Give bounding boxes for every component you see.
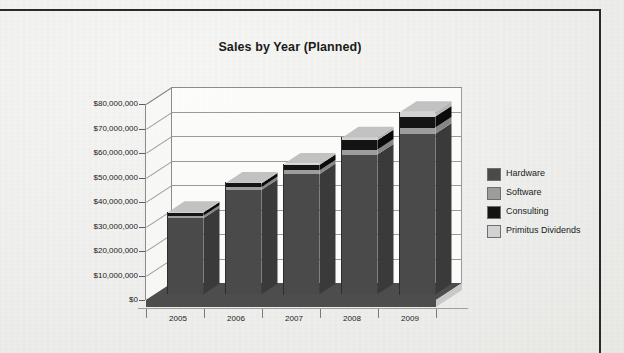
bar-side-2005-hardware [203,208,219,294]
ytick-label-80000000: $80,000,000 [52,99,138,108]
bar-side-2006-primitus-dividends [261,172,277,184]
bar-side-2007-primitus-dividends [319,153,335,165]
x-axis-baseline [138,308,468,309]
bar-top-2007 [284,153,335,164]
chart-sheet: Sales by Year (Planned) $80,000,000$70,0… [0,0,624,353]
legend-label-hardware: Hardware [506,168,545,178]
bar-side-2009-primitus-dividends [435,101,451,116]
bar-side-2005-software [203,205,219,218]
bar-segment-2009-software [400,128,435,134]
ytick-label-60000000: $60,000,000 [52,148,138,157]
ytick-label-70000000: $70,000,000 [52,124,138,133]
bar-segment-2007-primitus-dividends [284,164,319,165]
bar-segment-2007-hardware [284,174,319,294]
depthline-40000000 [146,185,173,203]
xtick-label-2009: 2009 [387,314,433,323]
ytick-label-50000000: $50,000,000 [52,173,138,182]
bar-segment-2005-consulting [168,213,203,216]
xtick-2006 [204,308,205,318]
bar-top-2006 [226,172,277,183]
depthline-50000000 [146,161,173,179]
bar-top-2009 [400,101,451,112]
bar-segment-2007-consulting [284,165,319,170]
bar-segment-2006-hardware [226,190,261,294]
depthline-70000000 [146,112,173,130]
bar-side-2005-primitus-dividends [203,201,219,212]
legend-label-primitus-dividends: Primitus Dividends [506,225,581,235]
bar-segment-2007-software [284,170,319,174]
xtick-label-2007: 2007 [271,314,317,323]
bar-segment-2009-hardware [400,134,435,294]
xtick-end [436,308,437,318]
bar-segment-2005-hardware [168,218,203,294]
bar-segment-2008-hardware [342,155,377,295]
bar-segment-2008-software [342,150,377,155]
bar-segment-2005-primitus-dividends [168,212,203,213]
bar-segment-2008-consulting [342,140,377,149]
wall-right-back [461,87,462,283]
bar-segment-2006-primitus-dividends [226,182,261,183]
legend-swatch-software [487,187,501,200]
legend-label-consulting: Consulting [506,206,549,216]
bar-side-2008-hardware [377,144,393,294]
xtick-2007 [262,308,263,318]
bar-side-2006-software [261,177,277,190]
xtick-2008 [320,308,321,318]
bar-side-2006-hardware [261,180,277,295]
bar-side-2009-consulting [435,106,451,128]
frame-top-left-depth [146,87,173,105]
legend-swatch-hardware [487,168,501,181]
bar-side-2008-software [377,139,393,154]
xtick-label-2005: 2005 [155,314,201,323]
bar-segment-2006-consulting [226,183,261,187]
legend-swatch-consulting [487,206,501,219]
ytick-0 [139,300,145,301]
xtick-label-2006: 2006 [213,314,259,323]
bar-segment-2009-primitus-dividends [400,112,435,117]
bar-side-2008-primitus-dividends [377,127,393,140]
bar-side-2007-hardware [319,164,335,295]
ytick-label-40000000: $40,000,000 [52,197,138,206]
xtick-label-2008: 2008 [329,314,375,323]
xtick-2005 [146,308,147,318]
xtick-2009 [378,308,379,318]
plot-floor-right-lip [436,283,462,307]
legend-swatch-primitus-dividends [487,225,501,238]
bar-segment-2006-software [226,187,261,190]
bar-side-2009-software [435,117,451,134]
depthline-60000000 [146,136,173,154]
bar-segment-2009-consulting [400,117,435,128]
ytick-label-0: $0 [52,295,138,304]
ytick-label-30000000: $30,000,000 [52,222,138,231]
bar-side-2007-consulting [319,155,335,171]
ytick-label-10000000: $10,000,000 [52,271,138,280]
bar-segment-2008-primitus-dividends [342,137,377,140]
sales-by-year-chart: $80,000,000$70,000,000$60,000,000$50,000… [0,0,624,353]
bar-segment-2005-software [168,216,203,218]
frame-top-back [172,87,462,88]
bar-side-2007-software [319,160,335,174]
bar-side-2008-consulting [377,130,393,150]
axis-y-front [145,104,146,300]
legend-label-software: Software [506,187,542,197]
plot-floor-front [146,300,436,307]
ytick-label-20000000: $20,000,000 [52,246,138,255]
